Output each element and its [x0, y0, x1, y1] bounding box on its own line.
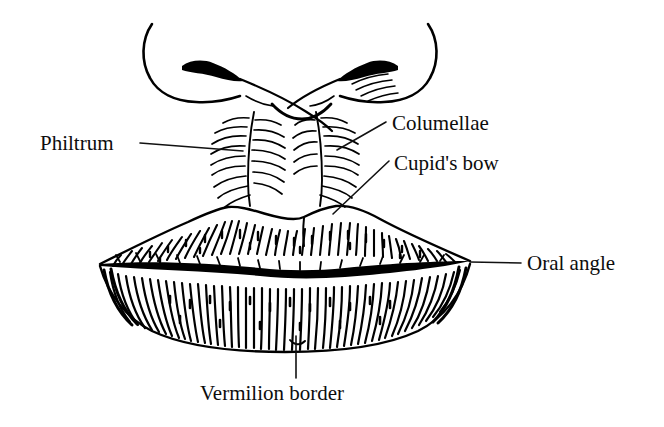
- label-cupids-bow-text: Cupid's bow: [394, 151, 500, 175]
- lip-anatomy-illustration: Philtrum Columellae Cupid's bow Oral ang…: [0, 0, 664, 427]
- nasal-sill-left: [246, 96, 273, 106]
- upper-lip-group: [100, 206, 470, 266]
- label-oral-angle-text: Oral angle: [527, 251, 615, 275]
- leader-line-oral-angle: [470, 262, 521, 263]
- label-columellae: Columellae: [337, 111, 489, 150]
- label-columellae-text: Columellae: [392, 111, 489, 135]
- figure-canvas: Philtrum Columellae Cupid's bow Oral ang…: [0, 0, 664, 427]
- mouth-line: [100, 261, 470, 278]
- label-oral-angle: Oral angle: [470, 251, 615, 275]
- upper-lip-hatching: [113, 221, 455, 266]
- label-vermilion-border-text: Vermilion border: [200, 381, 344, 405]
- philtrum-shading-inner-left: [252, 120, 285, 194]
- philtrum-shading-left: [211, 118, 250, 207]
- leader-line-cupids-bow: [333, 161, 389, 214]
- philtrum-shading-inner-right: [293, 120, 317, 174]
- philtrum-group: [211, 112, 359, 207]
- philtrum-shading-right: [320, 118, 359, 207]
- leader-line-columellae: [337, 122, 386, 150]
- label-philtrum-text: Philtrum: [40, 131, 114, 155]
- label-cupids-bow: Cupid's bow: [333, 151, 500, 214]
- left-nostril: [182, 61, 243, 82]
- philtral-ridge-left: [248, 112, 254, 206]
- philtral-ridge-right: [316, 112, 322, 206]
- upper-lip-tubercle: [303, 218, 304, 246]
- columella-base: [272, 104, 331, 119]
- oral-fissure-group: [100, 253, 470, 278]
- lower-lip-hatching: [110, 270, 460, 350]
